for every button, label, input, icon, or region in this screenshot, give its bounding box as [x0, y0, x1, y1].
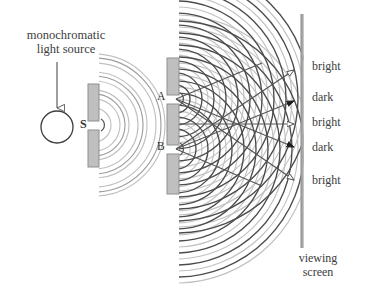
fringe-label-dark-2: dark — [312, 141, 333, 155]
source-caption-line1: monochromatic — [27, 28, 105, 42]
viewing-screen-caption: viewing screen — [286, 252, 350, 280]
screen-caption-line1: viewing — [299, 251, 338, 265]
source-caption-line2: light source — [12, 42, 120, 56]
fringe-label-bright-1: bright — [312, 60, 341, 74]
double-slit-diagram: monochromatic light source S A B bright … — [0, 0, 365, 297]
screen-caption-line2: screen — [286, 266, 350, 280]
fringe-label-bright-2: bright — [312, 116, 341, 130]
double-slit-barrier — [167, 58, 179, 194]
source-caption: monochromatic light source — [12, 28, 120, 57]
source-label-s: S — [80, 118, 87, 132]
fringe-label-bright-3: bright — [312, 174, 341, 188]
single-slit-barrier — [88, 84, 99, 167]
slit-label-b: B — [157, 140, 165, 153]
light-source-circle — [41, 111, 73, 143]
fringe-label-dark-1: dark — [312, 91, 333, 105]
slit-label-a: A — [157, 90, 165, 103]
